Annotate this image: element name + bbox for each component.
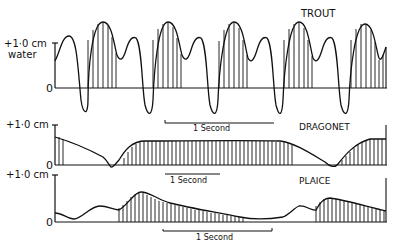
trout-title: TROUT <box>300 8 336 19</box>
dragonet-trace <box>55 137 386 167</box>
plaice-hatching <box>119 192 384 222</box>
plaice-zero-label: 0 <box>46 216 53 229</box>
trout-y-label: +1·0 cm <box>4 38 47 49</box>
trout-y-unit-label: water <box>8 49 37 60</box>
trout-panel: TROUT +1·0 cm water 0 <box>4 8 387 133</box>
trout-scale-label: 1 Second <box>193 124 230 133</box>
pressure-trace-figure: TROUT +1·0 cm water 0 <box>0 0 396 245</box>
dragonet-scale-label: 1 Second <box>170 176 207 185</box>
dragonet-title: DRAGONET <box>299 122 350 132</box>
dragonet-y-label: +1·0 cm <box>6 119 49 130</box>
plaice-title: PLAICE <box>299 176 331 186</box>
plaice-scale-label: 1 Second <box>196 233 233 242</box>
trout-zero-label: 0 <box>46 82 53 95</box>
plaice-y-label: +1·0 cm <box>6 169 49 180</box>
trout-trace <box>55 22 386 113</box>
